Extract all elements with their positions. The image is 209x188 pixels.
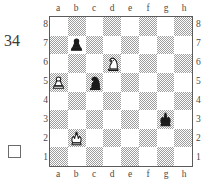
board-square-a8[interactable]: [50, 17, 68, 36]
board-square-e7[interactable]: [121, 36, 139, 55]
board-square-c5[interactable]: [86, 73, 104, 92]
file-label-d-top: d: [103, 3, 121, 14]
board-square-f1[interactable]: [139, 147, 157, 166]
board-square-h4[interactable]: [174, 92, 192, 111]
board-square-a4[interactable]: [50, 92, 68, 111]
rank-label-1-right: 1: [196, 152, 206, 164]
file-label-h-bottom: h: [175, 169, 193, 180]
chessboard[interactable]: [49, 16, 193, 167]
board-square-g7[interactable]: [157, 36, 175, 55]
board-square-e1[interactable]: [121, 147, 139, 166]
board-square-c8[interactable]: [86, 17, 104, 36]
board-square-d6[interactable]: [103, 54, 121, 73]
board-square-d4[interactable]: [103, 92, 121, 111]
board-square-b6[interactable]: [68, 54, 86, 73]
board-square-c2[interactable]: [86, 129, 104, 148]
rank-label-3-left: 3: [38, 114, 48, 126]
board-square-d2[interactable]: [103, 129, 121, 148]
board-square-f7[interactable]: [139, 36, 157, 55]
rank-label-4-right: 4: [196, 95, 206, 107]
board-square-e8[interactable]: [121, 17, 139, 36]
file-label-c-bottom: c: [85, 169, 103, 180]
file-label-a-top: a: [49, 3, 67, 14]
board-square-f5[interactable]: [139, 73, 157, 92]
board-square-f2[interactable]: [139, 129, 157, 148]
board-square-a3[interactable]: [50, 110, 68, 129]
file-label-f-bottom: f: [139, 169, 157, 180]
board-square-g2[interactable]: [157, 129, 175, 148]
diagram-number-label: 34: [4, 31, 38, 51]
board-square-h8[interactable]: [174, 17, 192, 36]
rank-label-1-left: 1: [38, 152, 48, 164]
board-square-c7[interactable]: [86, 36, 104, 55]
black-pawn-icon[interactable]: [68, 36, 86, 55]
board-square-g8[interactable]: [157, 17, 175, 36]
board-square-c4[interactable]: [86, 92, 104, 111]
rank-label-4-left: 4: [38, 95, 48, 107]
board-square-b4[interactable]: [68, 92, 86, 111]
board-square-h5[interactable]: [174, 73, 192, 92]
white-knight-icon[interactable]: [103, 54, 121, 73]
rank-label-5-left: 5: [38, 76, 48, 88]
white-king-icon[interactable]: [68, 129, 86, 148]
board-square-g4[interactable]: [157, 92, 175, 111]
board-square-h1[interactable]: [174, 147, 192, 166]
board-square-d5[interactable]: [103, 73, 121, 92]
board-square-d1[interactable]: [103, 147, 121, 166]
rank-label-6-right: 6: [196, 57, 206, 69]
board-square-h7[interactable]: [174, 36, 192, 55]
file-label-b-bottom: b: [67, 169, 85, 180]
file-label-e-top: e: [121, 3, 139, 14]
rank-label-8-left: 8: [38, 19, 48, 31]
board-square-f4[interactable]: [139, 92, 157, 111]
board-square-h2[interactable]: [174, 129, 192, 148]
board-square-b2[interactable]: [68, 129, 86, 148]
board-square-g1[interactable]: [157, 147, 175, 166]
board-square-d3[interactable]: [103, 110, 121, 129]
board-square-f8[interactable]: [139, 17, 157, 36]
board-square-d7[interactable]: [103, 36, 121, 55]
rank-label-7-left: 7: [38, 38, 48, 50]
board-square-e4[interactable]: [121, 92, 139, 111]
rank-label-3-right: 3: [196, 114, 206, 126]
board-square-h3[interactable]: [174, 110, 192, 129]
board-square-g5[interactable]: [157, 73, 175, 92]
board-square-a1[interactable]: [50, 147, 68, 166]
board-square-c6[interactable]: [86, 54, 104, 73]
board-square-b8[interactable]: [68, 17, 86, 36]
file-label-d-bottom: d: [103, 169, 121, 180]
board-square-e5[interactable]: [121, 73, 139, 92]
rank-label-2-left: 2: [38, 133, 48, 145]
board-square-a7[interactable]: [50, 36, 68, 55]
black-king-icon[interactable]: [157, 110, 175, 129]
file-label-g-top: g: [157, 3, 175, 14]
board-square-e6[interactable]: [121, 54, 139, 73]
board-square-g6[interactable]: [157, 54, 175, 73]
board-square-h6[interactable]: [174, 54, 192, 73]
chess-diagram: 34 aabbccddeeffgghh8877665544332211: [0, 0, 209, 188]
board-square-b3[interactable]: [68, 110, 86, 129]
board-square-g3[interactable]: [157, 110, 175, 129]
black-knight-icon[interactable]: [86, 73, 104, 92]
white-pawn-icon[interactable]: [50, 73, 68, 92]
board-square-e2[interactable]: [121, 129, 139, 148]
board-square-b7[interactable]: [68, 36, 86, 55]
rank-label-2-right: 2: [196, 133, 206, 145]
board-square-b1[interactable]: [68, 147, 86, 166]
file-label-a-bottom: a: [49, 169, 67, 180]
board-square-b5[interactable]: [68, 73, 86, 92]
rank-label-6-left: 6: [38, 57, 48, 69]
board-square-f3[interactable]: [139, 110, 157, 129]
board-square-c3[interactable]: [86, 110, 104, 129]
file-label-h-top: h: [175, 3, 193, 14]
rank-label-5-right: 5: [196, 76, 206, 88]
white-to-move-indicator: [8, 145, 21, 158]
board-square-e3[interactable]: [121, 110, 139, 129]
board-square-a2[interactable]: [50, 129, 68, 148]
board-square-a6[interactable]: [50, 54, 68, 73]
board-square-d8[interactable]: [103, 17, 121, 36]
board-square-c1[interactable]: [86, 147, 104, 166]
board-square-a5[interactable]: [50, 73, 68, 92]
board-square-f6[interactable]: [139, 54, 157, 73]
rank-label-7-right: 7: [196, 38, 206, 50]
